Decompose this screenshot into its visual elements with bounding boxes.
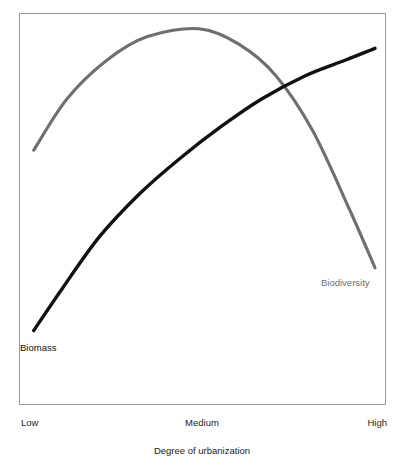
x-tick-high: High [0, 417, 387, 428]
chart-figure: Biomass Biodiversity Low Medium High Deg… [0, 0, 404, 470]
series-label-biomass: Biomass [20, 342, 56, 353]
series-label-biodiversity: Biodiversity [321, 277, 370, 288]
x-axis-title: Degree of urbanization [0, 445, 404, 457]
plot-area-frame [19, 13, 386, 405]
